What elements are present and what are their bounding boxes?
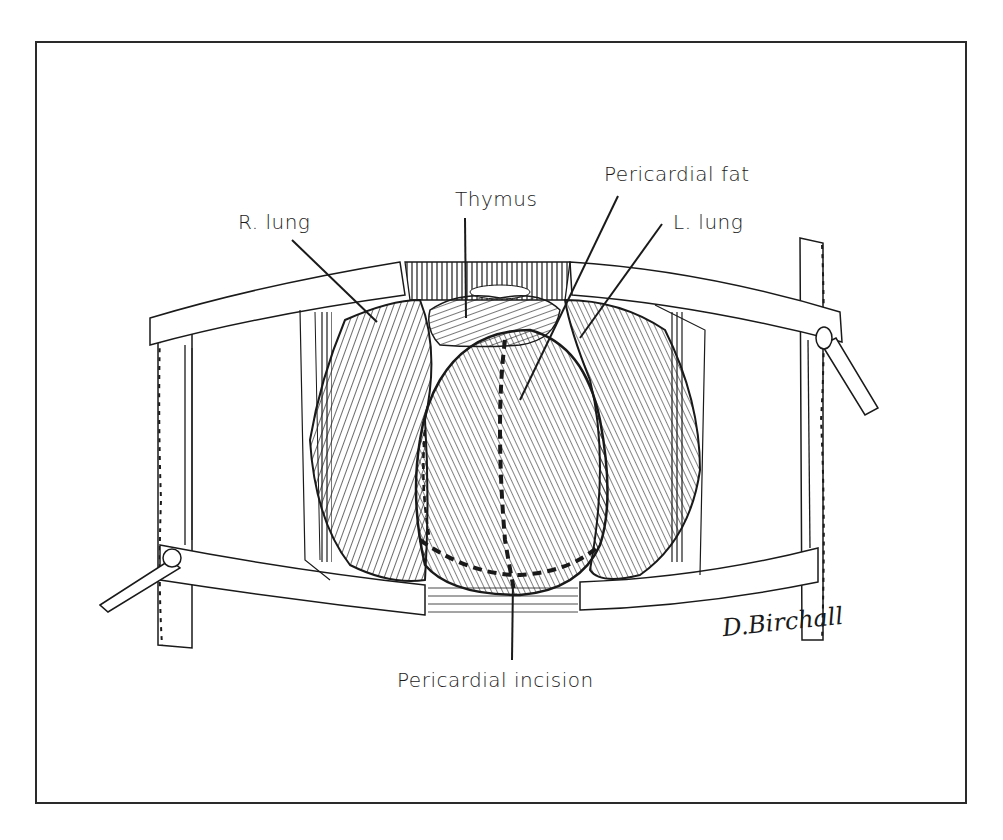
mediastinal-fat-pad	[405, 262, 570, 300]
label-pericardial-fat: Pericardial fat	[604, 162, 750, 186]
heart-pericardium	[416, 330, 608, 595]
label-thymus: Thymus	[455, 187, 537, 211]
label-pericardial-incision: Pericardial incision	[397, 668, 594, 692]
left-retractor-post	[158, 330, 192, 648]
right-retractor-handle	[816, 327, 878, 415]
label-l-lung: L. lung	[673, 210, 743, 234]
illustration	[0, 0, 1003, 840]
label-r-lung: R. lung	[238, 210, 310, 234]
